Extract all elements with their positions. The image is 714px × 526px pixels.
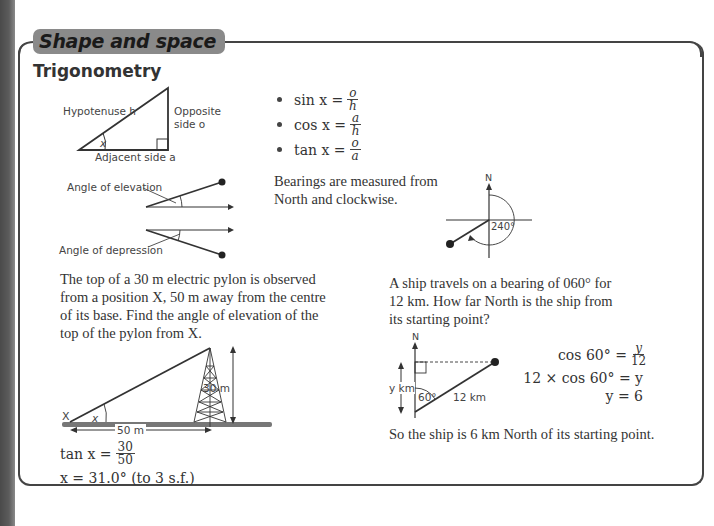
- ratio-cos: cos x = ah: [277, 112, 361, 137]
- ratio-tan-fraction: oa: [350, 137, 361, 162]
- section-title: Trigonometry: [33, 61, 161, 81]
- right-triangle-diagram: [75, 85, 175, 155]
- hypotenuse-label: Hypotenuse h: [63, 105, 136, 117]
- opposite-label-line2: side o: [174, 118, 205, 130]
- ratio-cos-fraction: ah: [350, 112, 361, 137]
- pylon-solution-fraction: 3050: [116, 441, 135, 466]
- pylon-distance-label: 50 m: [115, 424, 146, 436]
- page-edge-strip: [0, 0, 15, 526]
- pylon-question-line4: top of the pylon from X.: [60, 324, 202, 343]
- ratio-tan: tan x = oa: [277, 137, 361, 162]
- ship-question-line3: its starting point?: [389, 310, 490, 329]
- triangle-angle-label: x: [100, 137, 106, 149]
- elevation-label: Angle of elevation: [67, 181, 162, 193]
- ship-question-line2: 12 km. How far North is the ship from: [389, 292, 613, 311]
- ship-bearing-diagram: [395, 340, 505, 420]
- pylon-solution-lhs: tan x =: [60, 446, 112, 462]
- bearing-diagram: [440, 180, 535, 260]
- bearings-text-line2: North and clockwise.: [274, 190, 398, 209]
- bearing-north-label: N: [485, 172, 492, 183]
- opposite-label-line1: Opposite: [174, 105, 221, 117]
- ship-step1-lhs: cos 60° =: [558, 347, 627, 363]
- ratio-sin-fraction: oh: [347, 87, 358, 112]
- pylon-question-line3: of its base. Find the angle of elevation…: [60, 306, 319, 325]
- ratio-sin-lhs: sin x =: [294, 92, 343, 108]
- bullet-icon: [277, 97, 282, 102]
- chapter-tab: Shape and space: [33, 29, 225, 54]
- ship-y-label: y km: [389, 382, 415, 394]
- ratio-tan-lhs: tan x =: [294, 142, 346, 158]
- ratio-cos-lhs: cos x =: [294, 117, 346, 133]
- frame-top-border: [160, 41, 702, 57]
- ratio-sin: sin x = oh: [277, 87, 358, 112]
- pylon-question-line1: The top of a 30 m electric pylon is obse…: [60, 270, 316, 289]
- bearing-angle-label: 240°: [491, 221, 515, 232]
- bullet-icon: [277, 147, 282, 152]
- ship-conclusion: So the ship is 6 km North of its startin…: [389, 425, 654, 444]
- pylon-question-line2: from a position X, 50 m away from the ce…: [60, 288, 326, 307]
- pylon-solution-line2: x = 31.0° (to 3 s.f.): [60, 470, 195, 486]
- depression-label: Angle of depression: [59, 244, 163, 256]
- pylon-angle-label: x: [92, 412, 98, 424]
- ship-step1-fraction: y12: [631, 342, 646, 367]
- pylon-solution-line1: tan x = 3050: [60, 441, 135, 466]
- ship-distance-label: 12 km: [453, 391, 486, 403]
- bullet-icon: [277, 122, 282, 127]
- ship-question-line1: A ship travels on a bearing of 060° for: [389, 274, 611, 293]
- ship-step1: cos 60° = y12: [558, 342, 646, 367]
- adjacent-label: Adjacent side a: [95, 151, 176, 163]
- ship-north-label: N: [412, 331, 419, 342]
- pylon-height-label: 30 m: [203, 382, 230, 394]
- pylon-point-x-label: X: [62, 410, 70, 423]
- ship-step2: 12 × cos 60° = y: [523, 370, 643, 386]
- ship-step3: y = 6: [606, 388, 643, 404]
- bearings-text-line1: Bearings are measured from: [274, 172, 438, 191]
- ship-angle-label: 60°: [418, 391, 437, 403]
